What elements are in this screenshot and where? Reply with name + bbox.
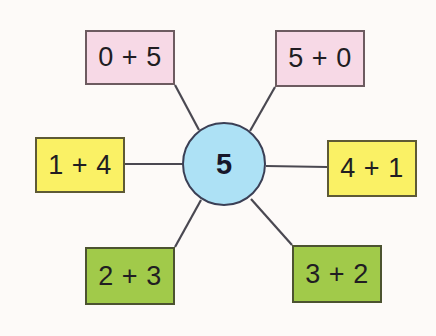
node-label-middle-left: 1 + 4 bbox=[48, 152, 111, 179]
edge-bottom-right-to-center bbox=[251, 199, 292, 245]
node-label-bottom-left: 2 + 3 bbox=[98, 263, 161, 290]
center-node-circle[interactable]: 5 bbox=[182, 122, 266, 206]
center-node-label: 5 bbox=[216, 148, 232, 181]
edge-top-right-to-center bbox=[250, 87, 275, 131]
node-label-top-left: 0 + 5 bbox=[98, 44, 161, 71]
node-box-bottom-left[interactable]: 2 + 3 bbox=[85, 247, 175, 305]
edge-middle-right-to-center bbox=[266, 166, 327, 167]
node-box-bottom-right[interactable]: 3 + 2 bbox=[292, 245, 382, 303]
node-box-middle-right[interactable]: 4 + 1 bbox=[327, 140, 417, 197]
node-box-top-right[interactable]: 5 + 0 bbox=[275, 30, 365, 87]
node-label-bottom-right: 3 + 2 bbox=[305, 261, 368, 288]
node-box-middle-left[interactable]: 1 + 4 bbox=[35, 137, 125, 193]
node-box-top-left[interactable]: 0 + 5 bbox=[85, 30, 175, 85]
edge-top-left-to-center bbox=[175, 85, 199, 130]
node-label-middle-right: 4 + 1 bbox=[340, 155, 403, 182]
edge-bottom-left-to-center bbox=[175, 200, 201, 247]
diagram-canvas: 0 + 5 5 + 0 1 + 4 4 + 1 2 + 3 3 + 2 5 bbox=[0, 0, 436, 336]
node-label-top-right: 5 + 0 bbox=[288, 45, 351, 72]
